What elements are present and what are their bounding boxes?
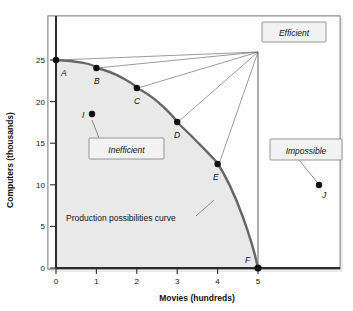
y-axis-title: Computers (thousands) — [5, 112, 15, 208]
data-point-J[interactable] — [316, 182, 322, 188]
data-point-D[interactable] — [174, 119, 180, 125]
data-point-B[interactable] — [93, 65, 99, 71]
y-tick-label-10: 10 — [36, 181, 45, 190]
x-tick-label-5: 5 — [256, 277, 261, 286]
x-tick-label-4: 4 — [215, 277, 220, 286]
y-tick-label-5: 5 — [41, 222, 46, 231]
data-point-label-E: E — [213, 172, 219, 182]
data-point-label-C: C — [134, 96, 141, 106]
inefficient-callout-label: Inefficient — [108, 145, 145, 155]
y-tick-label-15: 15 — [36, 139, 45, 148]
data-point-label-J: J — [321, 190, 327, 200]
data-point-label-B: B — [94, 76, 100, 86]
x-tick-label-1: 1 — [94, 277, 99, 286]
data-point-label-D: D — [174, 130, 180, 140]
data-point-E[interactable] — [214, 161, 220, 167]
data-point-C[interactable] — [134, 85, 140, 91]
efficient-callout[interactable]: Efficient — [262, 22, 326, 42]
y-tick-label-0: 0 — [41, 264, 46, 273]
data-point-A[interactable] — [53, 57, 59, 63]
curve-note-label: Production possibilities curve — [66, 213, 176, 223]
efficient-callout-label: Efficient — [279, 28, 310, 38]
inefficient-callout[interactable]: Inefficient — [89, 138, 164, 159]
impossible-callout-label: Impossible — [286, 146, 327, 156]
x-tick-label-0: 0 — [54, 277, 59, 286]
impossible-callout[interactable]: Impossible — [270, 139, 342, 160]
data-point-label-F: F — [245, 255, 251, 265]
y-tick-label-20: 20 — [36, 98, 45, 107]
ppc-chart-svg: 0 5 10 15 20 25 0 1 2 3 4 5 Movies (hund… — [0, 0, 353, 311]
ppc-figure: 0 5 10 15 20 25 0 1 2 3 4 5 Movies (hund… — [0, 0, 353, 311]
x-tick-label-2: 2 — [135, 277, 140, 286]
data-point-label-A: A — [60, 68, 67, 78]
x-axis-title: Movies (hundreds) — [159, 293, 235, 303]
y-tick-label-25: 25 — [36, 56, 45, 65]
data-point-F[interactable] — [254, 264, 261, 271]
x-tick-label-3: 3 — [175, 277, 180, 286]
data-point-I[interactable] — [89, 111, 95, 117]
